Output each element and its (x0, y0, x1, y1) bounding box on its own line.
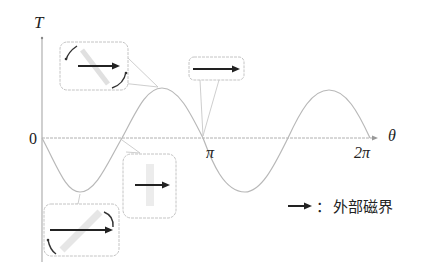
plot-svg (0, 0, 424, 274)
legend-separator: ： (316, 195, 331, 216)
callout-field-at-half-pi (122, 140, 176, 218)
callout-field-at-pi (189, 57, 244, 136)
torque-diagram: T 0 π 2π θ ： 外部磁界 (0, 0, 424, 274)
arrow-right-icon (286, 200, 314, 212)
origin-label: 0 (29, 131, 37, 147)
legend: ： 外部磁界 (286, 195, 393, 216)
legend-text: 外部磁界 (333, 195, 393, 216)
x-axis-arrowhead-icon (372, 136, 378, 141)
callout-rotation-cw-top (60, 42, 158, 90)
x-tick-2pi: 2π (354, 145, 370, 161)
y-axis-label: T (34, 14, 43, 31)
x-tick-pi: π (206, 145, 214, 161)
x-axis-label: θ (388, 128, 396, 144)
y-axis-tip (41, 37, 43, 39)
callout-rotation-bottom (44, 194, 119, 256)
